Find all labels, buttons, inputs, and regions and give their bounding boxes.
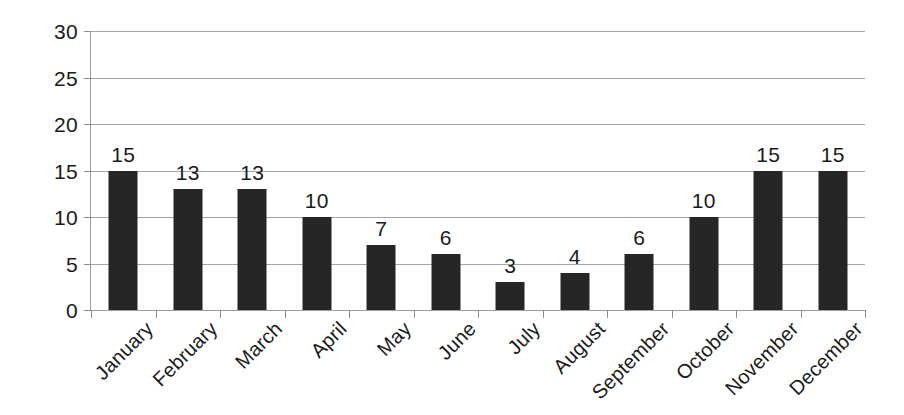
x-axis-tick-label: August [549, 318, 608, 377]
x-axis-tick-mark [543, 310, 544, 318]
y-axis-tick-label: 20 [0, 114, 78, 135]
x-axis-tick-mark [156, 310, 157, 318]
y-axis-tick-label: 10 [0, 207, 78, 228]
bar-value-label: 15 [111, 144, 135, 165]
bar[interactable] [818, 171, 847, 311]
x-axis-tick-label: January [91, 318, 156, 383]
bar[interactable] [302, 217, 331, 310]
bar-slot: 6 [607, 31, 672, 310]
bar-value-label: 7 [375, 218, 387, 239]
x-axis-tick-mark [672, 310, 673, 318]
y-axis-tick-mark [84, 264, 91, 265]
bar[interactable] [173, 189, 202, 310]
x-axis-tick-mark [865, 310, 866, 318]
bar-value-label: 10 [692, 190, 716, 211]
bar-value-label: 6 [440, 227, 452, 248]
y-axis-tick-label: 30 [0, 21, 78, 42]
bar-value-label: 4 [569, 246, 581, 267]
bar-value-label: 15 [756, 144, 780, 165]
x-axis-tick-mark [801, 310, 802, 318]
bar-slot: 6 [414, 31, 479, 310]
y-axis-tick-mark [84, 31, 91, 32]
bar-value-label: 6 [633, 227, 645, 248]
x-axis-tick-mark [736, 310, 737, 318]
x-axis-tick-label: July [504, 318, 544, 358]
bar[interactable] [754, 171, 783, 311]
x-axis-tick-mark [220, 310, 221, 318]
bar[interactable] [496, 282, 525, 310]
bar[interactable] [560, 273, 589, 310]
x-axis-labels: JanuaryFebruaryMarchAprilMayJuneJulyAugu… [91, 318, 865, 415]
y-axis-tick-mark [84, 124, 91, 125]
bar-value-label: 15 [821, 144, 845, 165]
x-axis-tick-mark [349, 310, 350, 318]
bar[interactable] [238, 189, 267, 310]
bar[interactable] [689, 217, 718, 310]
bar-value-label: 3 [504, 255, 516, 276]
bar[interactable] [625, 254, 654, 310]
bar-value-label: 13 [176, 162, 200, 183]
y-axis-tick-mark [84, 171, 91, 172]
x-axis-tick-label: April [307, 318, 350, 361]
bar-value-label: 10 [305, 190, 329, 211]
bar[interactable] [109, 171, 138, 311]
bar-value-label: 13 [240, 162, 264, 183]
bars-layer: 1513131076346101515 [91, 31, 865, 310]
y-axis-tick-label: 0 [0, 300, 78, 321]
x-axis-tick-label: February [149, 318, 221, 390]
bar-slot: 15 [801, 31, 866, 310]
x-axis-tick-label: March [232, 318, 286, 372]
x-axis-tick-mark [414, 310, 415, 318]
x-axis-tick-mark [91, 310, 92, 318]
bar[interactable] [367, 245, 396, 310]
bar-slot: 13 [220, 31, 285, 310]
y-axis-tick-mark [84, 310, 91, 311]
bar-slot: 15 [736, 31, 801, 310]
bar-slot: 10 [672, 31, 737, 310]
bar-slot: 4 [543, 31, 608, 310]
bar-slot: 10 [285, 31, 350, 310]
bar-slot: 7 [349, 31, 414, 310]
x-axis-tick-mark [607, 310, 608, 318]
y-axis-tick-label: 25 [0, 67, 78, 88]
y-axis-tick-label: 15 [0, 160, 78, 181]
bar-chart: 302520151050 1513131076346101515 January… [0, 0, 904, 415]
x-axis-tick-label: May [373, 318, 414, 359]
y-axis-tick-mark [84, 78, 91, 79]
bar-slot: 15 [91, 31, 156, 310]
x-axis-tick-mark [478, 310, 479, 318]
y-axis-tick-mark [84, 217, 91, 218]
bar-slot: 13 [156, 31, 221, 310]
x-axis-tick-mark [285, 310, 286, 318]
bar-slot: 3 [478, 31, 543, 310]
x-axis-tick-label: October [672, 318, 737, 383]
x-axis-tick-label: June [434, 318, 479, 363]
bar[interactable] [431, 254, 460, 310]
y-axis-tick-label: 5 [0, 253, 78, 274]
